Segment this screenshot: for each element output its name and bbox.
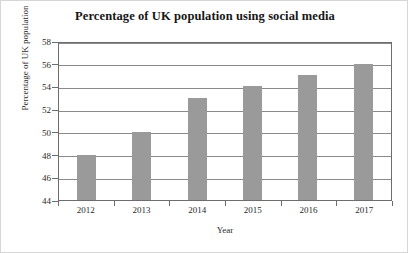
x-tick-mark [392, 201, 393, 206]
y-tick-mark [52, 201, 58, 202]
bar-2014 [188, 98, 207, 200]
bar-2013 [132, 132, 151, 200]
x-tick-label: 2016 [281, 205, 337, 215]
y-tick-label: 46 [27, 173, 51, 183]
x-tick-label: 2017 [336, 205, 392, 215]
chart-figure: Percentage of UK population using social… [0, 0, 408, 253]
y-axis-tick-labels: 4446485052545658 [22, 42, 51, 201]
y-tick-label: 48 [27, 151, 51, 161]
bar-slot [114, 43, 169, 200]
y-tick-label: 54 [27, 82, 51, 92]
bar-2017 [354, 64, 373, 200]
y-tick-label: 58 [27, 37, 51, 47]
y-tick-mark [52, 132, 58, 133]
y-tick-mark [52, 64, 58, 65]
bar-slot [59, 43, 114, 200]
y-tick-mark [52, 155, 58, 156]
x-tick-label: 2014 [169, 205, 225, 215]
bar-2015 [243, 86, 262, 200]
bar-2016 [298, 75, 317, 200]
y-tick-mark [52, 87, 58, 88]
x-axis-title: Year [58, 225, 392, 235]
bar-slot [225, 43, 280, 200]
y-tick-mark [52, 110, 58, 111]
y-tick-label: 52 [27, 105, 51, 115]
y-tick-mark [52, 42, 58, 43]
x-tick-label: 2012 [58, 205, 114, 215]
y-tick-mark [52, 178, 58, 179]
bar-slot [170, 43, 225, 200]
x-tick-label: 2013 [114, 205, 170, 215]
bar-series [59, 43, 391, 200]
x-tick-label: 2015 [225, 205, 281, 215]
chart-title: Percentage of UK population using social… [1, 9, 408, 24]
y-tick-label: 56 [27, 60, 51, 70]
bar-slot [280, 43, 335, 200]
x-axis-tick-labels: 201220132014201520162017 [58, 205, 392, 215]
y-tick-label: 44 [27, 196, 51, 206]
bar-2012 [77, 155, 96, 200]
plot-area [58, 42, 392, 201]
y-tick-label: 50 [27, 128, 51, 138]
bar-slot [336, 43, 391, 200]
